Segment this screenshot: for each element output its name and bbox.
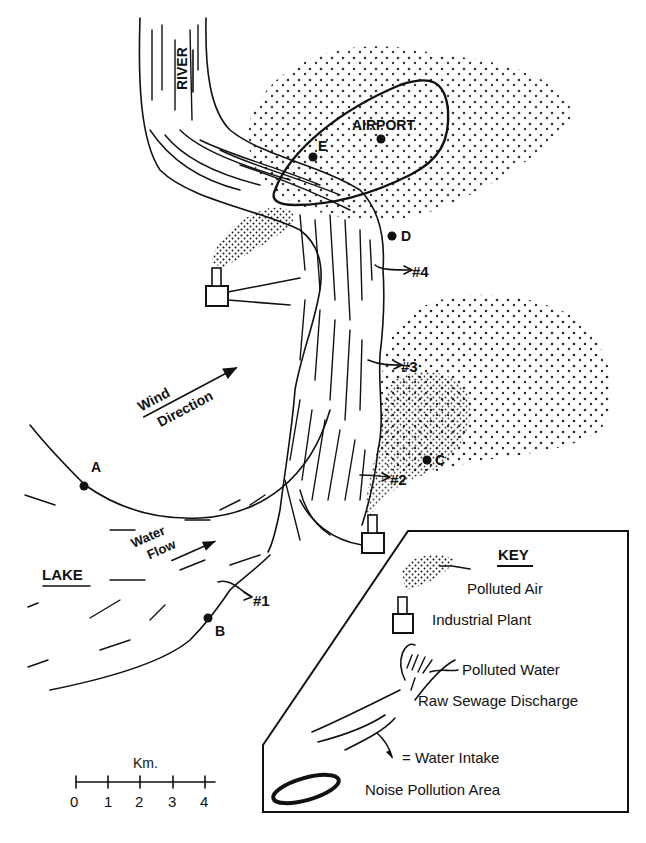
svg-text:#3: #3 bbox=[401, 358, 418, 375]
airport-label: AIRPORT bbox=[352, 117, 415, 133]
svg-text:#1: #1 bbox=[253, 592, 270, 609]
svg-text:#4: #4 bbox=[412, 263, 429, 280]
svg-text:3: 3 bbox=[168, 793, 176, 810]
wind-direction-indicator: Wind Direction bbox=[135, 350, 247, 434]
svg-text:Industrial Plant: Industrial Plant bbox=[432, 611, 532, 628]
airport-marker bbox=[377, 135, 386, 144]
river-label: RIVER bbox=[174, 47, 190, 90]
industrial-plant-west bbox=[206, 268, 300, 306]
svg-text:D: D bbox=[401, 228, 411, 244]
svg-text:A: A bbox=[91, 459, 101, 475]
svg-text:#2: #2 bbox=[390, 471, 407, 488]
water-flow-indicator: Water Flow bbox=[129, 505, 218, 577]
point-b: B bbox=[204, 614, 226, 640]
svg-text:4: 4 bbox=[200, 793, 208, 810]
svg-text:Polluted Air: Polluted Air bbox=[467, 580, 543, 597]
svg-text:Raw Sewage Discharge: Raw Sewage Discharge bbox=[418, 692, 578, 709]
pollution-map: AIRPORT RIVER #4 #3 #2 bbox=[0, 0, 646, 843]
svg-text:Km.: Km. bbox=[133, 755, 158, 771]
svg-text:= Water Intake: = Water Intake bbox=[402, 749, 499, 766]
svg-text:2: 2 bbox=[135, 793, 143, 810]
svg-text:B: B bbox=[215, 623, 225, 639]
lake-label: LAKE bbox=[42, 566, 83, 583]
key-title: KEY bbox=[498, 546, 529, 563]
svg-text:Noise Pollution Area: Noise Pollution Area bbox=[365, 781, 501, 798]
point-d: D bbox=[388, 228, 412, 244]
svg-text:1: 1 bbox=[104, 793, 112, 810]
map-key: KEY Polluted Air Industrial Plant Pollut… bbox=[263, 531, 628, 812]
scale-bar: Km. 0 1 2 3 4 bbox=[70, 755, 215, 810]
point-a: A bbox=[80, 459, 102, 491]
airport-pollution-cloud bbox=[248, 46, 571, 220]
svg-text:Polluted Water: Polluted Water bbox=[462, 661, 560, 678]
plant-pollution-cloud-west bbox=[212, 207, 294, 268]
svg-text:0: 0 bbox=[70, 793, 78, 810]
svg-text:E: E bbox=[318, 138, 327, 154]
svg-text:C: C bbox=[435, 452, 445, 468]
